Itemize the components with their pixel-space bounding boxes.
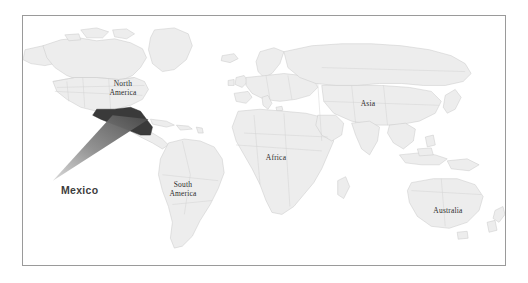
tasmania-land: [457, 231, 468, 239]
borneo-land: [417, 148, 433, 156]
ireland-land: [228, 79, 234, 85]
mexico-callout-label: Mexico: [61, 184, 98, 196]
map-frame: North America South America Africa Asia …: [22, 15, 506, 266]
world-map-figure: North America South America Africa Asia …: [0, 0, 528, 283]
new-zealand-south-land: [487, 220, 497, 232]
philippines-land: [425, 135, 435, 147]
world-map-graphic: [23, 16, 505, 265]
